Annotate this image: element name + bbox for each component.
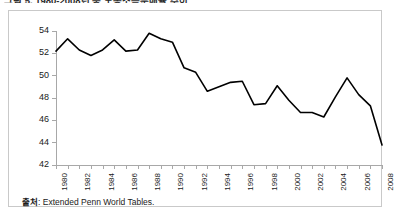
x-tick-label: 1992 [200, 173, 209, 191]
x-tick-mark [312, 165, 313, 169]
x-tick-mark [266, 165, 267, 169]
x-tick-mark [91, 165, 92, 169]
chart-plot: 42444648505254 1980198219841986198819901… [56, 31, 382, 165]
x-tick-label: 2006 [363, 173, 372, 191]
y-tick-label: 54 [39, 25, 49, 35]
y-tick-label: 42 [39, 159, 49, 169]
source-caption-text: : Extended Penn World Tables. [38, 197, 154, 207]
x-tick-mark [138, 165, 139, 169]
x-tick-mark [324, 165, 325, 169]
x-tick-label: 1984 [107, 173, 116, 191]
x-tick-mark [219, 165, 220, 169]
source-caption-prefix: 출처 [22, 197, 38, 207]
x-tick-mark [149, 165, 150, 169]
x-tick-mark [254, 165, 255, 169]
x-tick-mark [196, 165, 197, 169]
y-tick-label: 50 [39, 70, 49, 80]
x-tick-mark [289, 165, 290, 169]
x-tick-mark [68, 165, 69, 169]
y-tick-label: 44 [39, 137, 49, 147]
x-tick-label: 1988 [153, 173, 162, 191]
x-tick-label: 1994 [223, 173, 232, 191]
x-tick-label: 2004 [339, 173, 348, 191]
x-tick-mark [277, 165, 278, 169]
x-tick-label: 1990 [176, 173, 185, 191]
figure-frame: 42444648505254 1980198219841986198819901… [8, 10, 382, 207]
x-tick-mark [103, 165, 104, 169]
x-tick-mark [114, 165, 115, 169]
x-tick-mark [184, 165, 185, 169]
x-tick-mark [347, 165, 348, 169]
y-tick-label: 46 [39, 114, 49, 124]
x-tick-mark [242, 165, 243, 169]
x-tick-label: 1982 [83, 173, 92, 191]
source-caption: 출처: Extended Penn World Tables. [22, 195, 154, 207]
x-tick-label: 1998 [270, 173, 279, 191]
x-tick-mark [207, 165, 208, 169]
x-tick-mark [56, 165, 57, 169]
x-tick-mark [359, 165, 360, 169]
figure-heading-clipped: 그림 5. 1980-2008년 중 노동소득분배율 추이 [4, 0, 304, 3]
x-tick-mark [172, 165, 173, 169]
x-tick-mark [79, 165, 80, 169]
x-tick-label: 2008 [386, 173, 395, 191]
x-tick-mark [301, 165, 302, 169]
x-tick-mark [335, 165, 336, 169]
x-tick-label: 1986 [130, 173, 139, 191]
x-tick-label: 2000 [293, 173, 302, 191]
x-tick-mark [126, 165, 127, 169]
x-tick-label: 1980 [60, 173, 69, 191]
x-tick-mark [370, 165, 371, 169]
x-tick-mark [231, 165, 232, 169]
series-line [56, 33, 382, 145]
x-tick-mark [161, 165, 162, 169]
x-tick-mark [382, 165, 383, 169]
x-tick-label: 2002 [316, 173, 325, 191]
x-tick-label: 1996 [246, 173, 255, 191]
line-series [56, 31, 382, 165]
y-tick-label: 52 [39, 47, 49, 57]
y-tick-label: 48 [39, 92, 49, 102]
